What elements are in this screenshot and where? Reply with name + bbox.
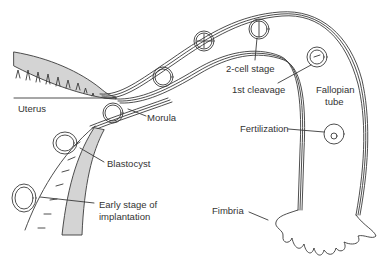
- uterine-wall-curved: [62, 128, 104, 235]
- label-two-cell: 2-cell stage: [226, 63, 275, 75]
- label-blastocyst: Blastocyst: [107, 158, 150, 170]
- label-first-cleavage: 1st cleavage: [232, 84, 285, 96]
- label-early-implantation-2: implantation: [99, 211, 150, 223]
- diagram-drawing: [0, 0, 382, 261]
- morula-upper-icon: [153, 67, 173, 87]
- implanting-embryo-icon: [12, 184, 36, 212]
- fimbria: [276, 210, 376, 255]
- label-uterus: Uterus: [18, 103, 46, 115]
- label-fimbria: Fimbria: [212, 205, 244, 217]
- fertilization-icon: [324, 124, 344, 144]
- reproductive-diagram: Uterus Morula Blastocyst Early stage of …: [0, 0, 382, 261]
- label-fertilization: Fertilization: [240, 123, 289, 135]
- label-morula: Morula: [147, 112, 176, 124]
- label-fallopian-2: tube: [325, 96, 344, 108]
- label-early-implantation-1: Early stage of: [99, 199, 157, 211]
- label-fallopian-1: Fallopian: [316, 84, 355, 96]
